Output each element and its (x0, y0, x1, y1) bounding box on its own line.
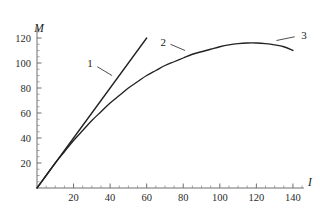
curve-label-2: 2 (160, 36, 166, 48)
chart-canvas: 20406080100120140 20406080100120 123 M I (0, 0, 320, 217)
curve-label-3: 3 (301, 29, 307, 41)
x-tick-label: 100 (212, 192, 228, 203)
y-tick-label: 60 (21, 108, 32, 119)
y-tick-label: 80 (21, 83, 32, 94)
axes-group (37, 28, 304, 188)
y-axis-tick-labels: 20406080100120 (15, 33, 31, 169)
curve-label-leader-3 (276, 37, 294, 41)
x-axis-title: I (307, 176, 313, 188)
x-axis-tick-labels: 20406080100120140 (68, 192, 300, 203)
x-tick-label: 140 (285, 192, 301, 203)
x-tick-label: 40 (105, 192, 116, 203)
curve-label-1: 1 (87, 57, 93, 69)
figure-root: 20406080100120140 20406080100120 123 M I (0, 0, 320, 217)
x-tick-label: 20 (68, 192, 79, 203)
y-tick-label: 40 (21, 133, 32, 144)
curve-label-leader-2 (170, 44, 185, 50)
x-tick-label: 80 (178, 192, 189, 203)
data-curve-2 (37, 43, 293, 188)
y-tick-label: 120 (15, 33, 31, 44)
x-tick-label: 120 (248, 192, 264, 203)
y-tick-label: 20 (21, 158, 32, 169)
curve-label-leader-1 (97, 67, 112, 76)
x-tick-label: 60 (141, 192, 152, 203)
y-tick-label: 100 (15, 58, 31, 69)
x-axis-major-ticks (74, 184, 293, 189)
y-axis-title: M (33, 22, 45, 34)
data-series-group (37, 38, 293, 188)
